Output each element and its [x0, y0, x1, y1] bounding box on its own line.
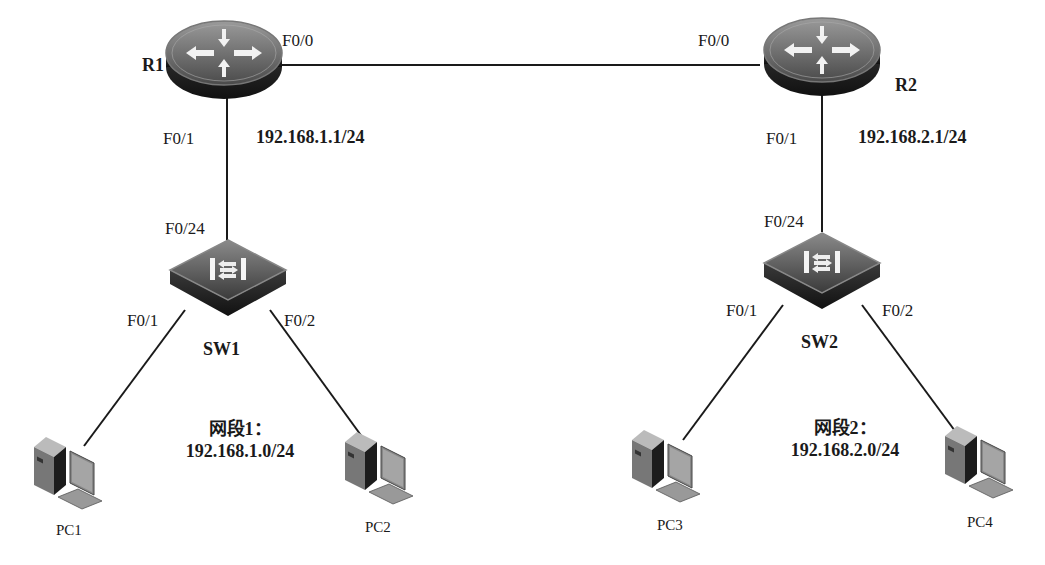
- sw1-port-f02: F0/2: [284, 312, 315, 329]
- sw1-label: SW1: [203, 340, 240, 358]
- sw2-label: SW2: [801, 333, 838, 351]
- segment-2-name: 网段2：: [775, 417, 915, 439]
- pc1-label: PC1: [56, 523, 82, 538]
- sw2-port-f02: F0/2: [882, 302, 913, 319]
- r2-port-f00: F0/0: [698, 32, 729, 49]
- segment-1: 网段1： 192.168.1.0/24: [170, 418, 310, 462]
- sw2-port-f01: F0/1: [726, 302, 757, 319]
- router-r2-icon: [764, 18, 880, 96]
- segment-2: 网段2： 192.168.2.0/24: [775, 417, 915, 461]
- pc4-label: PC4: [967, 515, 993, 530]
- pc4-icon: [945, 426, 1013, 498]
- sw1-port-f024: F0/24: [165, 220, 205, 237]
- link-sw2-pc4: [862, 305, 958, 435]
- segment-1-network: 192.168.1.0/24: [170, 440, 310, 462]
- pc1-icon: [34, 437, 102, 509]
- r1-port-f00: F0/0: [282, 32, 313, 49]
- pc2-icon: [345, 432, 413, 504]
- pc2-label: PC2: [365, 520, 391, 535]
- switch-sw1-icon: [170, 240, 286, 316]
- r1-ip: 192.168.1.1/24: [256, 128, 365, 146]
- link-sw2-pc3: [683, 305, 783, 440]
- r2-port-f01: F0/1: [766, 130, 797, 147]
- sw2-port-f024: F0/24: [764, 213, 804, 230]
- r1-port-f01: F0/1: [163, 130, 194, 147]
- pc3-label: PC3: [657, 518, 683, 533]
- segment-2-network: 192.168.2.0/24: [775, 439, 915, 461]
- sw1-port-f01: F0/1: [127, 312, 158, 329]
- r1-label: R1: [142, 56, 164, 74]
- r2-ip: 192.168.2.1/24: [858, 128, 967, 146]
- segment-1-name: 网段1：: [170, 418, 310, 440]
- router-r1-icon: [166, 21, 282, 99]
- switch-sw2-icon: [764, 233, 880, 309]
- r2-label: R2: [895, 76, 917, 94]
- pc3-icon: [632, 430, 700, 502]
